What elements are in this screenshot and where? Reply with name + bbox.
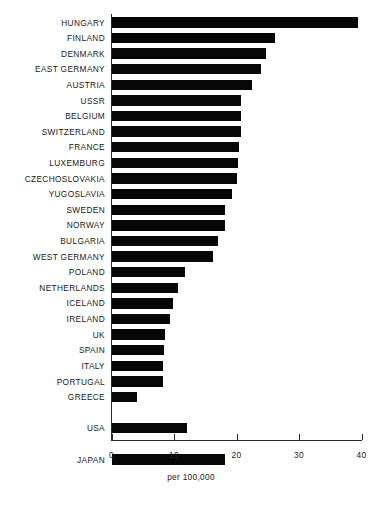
category-label: USA [87,421,105,435]
category-label: POLAND [69,265,105,279]
x-axis-tick [112,434,113,440]
x-axis-tick [362,434,363,440]
bar [112,111,241,121]
x-axis-tick [299,434,300,440]
bar-row: LUXEMBURG [112,155,362,171]
bar [112,329,165,339]
bar-row: SWEDEN [112,202,362,218]
bar-row: EAST GERMANY [112,62,362,78]
category-label: USSR [81,94,105,108]
bar-row: SWITZERLAND [112,124,362,140]
bar [112,158,238,168]
bar-row: ITALY [112,358,362,374]
category-label: SWITZERLAND [42,125,105,139]
category-label: PORTUGAL [57,375,105,389]
bar [112,392,137,402]
bar [112,345,164,355]
bar-row: DENMARK [112,46,362,62]
category-label: YUGOSLAVIA [49,187,105,201]
bar [112,205,225,215]
category-label: FRANCE [69,140,105,154]
bar-rows: HUNGARYFINLANDDENMARKEAST GERMANYAUSTRIA… [112,15,362,468]
category-label: DENMARK [61,47,105,61]
category-label: SWEDEN [66,203,105,217]
bar-chart: HUNGARYFINLANDDENMARKEAST GERMANYAUSTRIA… [0,0,382,505]
bar-row: GREECE [112,390,362,406]
bar [112,48,266,58]
bar-row: PORTUGAL [112,374,362,390]
bar-row: NETHERLANDS [112,280,362,296]
category-label: ITALY [81,359,105,373]
category-label: BULGARIA [60,234,105,248]
bar-row: POLAND [112,265,362,281]
bar [112,376,163,386]
x-axis-tick-label: 30 [294,450,304,460]
bar [112,64,261,74]
bar-row: HUNGARY [112,15,362,31]
x-axis-tick-label: 20 [232,450,242,460]
bar [112,80,252,90]
x-axis-tick [174,434,175,440]
bar-row: USSR [112,93,362,109]
bar [112,33,275,43]
bar-row: FINLAND [112,31,362,47]
category-label: SPAIN [79,343,105,357]
category-label: BELGIUM [65,109,105,123]
bar-row: CZECHOSLOVAKIA [112,171,362,187]
bar-row: ICELAND [112,296,362,312]
x-axis-tick-label: 0 [109,450,114,460]
category-label: HUNGARY [61,16,105,30]
bar [112,220,225,230]
bar-row: SPAIN [112,343,362,359]
category-label: AUSTRIA [67,78,105,92]
x-axis-tick-label: 10 [169,450,179,460]
bar-row: NORWAY [112,218,362,234]
category-label: NETHERLANDS [39,281,105,295]
category-label: EAST GERMANY [35,62,105,76]
category-label: WEST GERMANY [33,250,105,264]
category-label: ICELAND [67,296,105,310]
category-label: JAPAN [77,453,105,467]
bar [112,283,178,293]
bar [112,236,218,246]
y-axis-line [111,14,112,441]
bar [112,173,237,183]
bar-row: FRANCE [112,140,362,156]
category-label: NORWAY [67,218,105,232]
x-axis-line [111,440,362,441]
category-label: IRELAND [67,312,105,326]
bar [112,95,241,105]
bar-row: BELGIUM [112,109,362,125]
bar [112,361,163,371]
bar [112,314,170,324]
bar [112,251,213,261]
category-label: FINLAND [67,31,105,45]
x-axis-tick [237,434,238,440]
category-label: GREECE [68,390,105,404]
bar [112,298,173,308]
bar-row: BULGARIA [112,234,362,250]
bar [112,423,187,433]
bar [112,189,232,199]
bar [112,126,241,136]
bar-row: WEST GERMANY [112,249,362,265]
bar-row: YUGOSLAVIA [112,187,362,203]
category-label: LUXEMBURG [49,156,105,170]
x-axis-tick-label: 40 [357,450,367,460]
bar [112,17,358,27]
category-label: CZECHOSLOVAKIA [25,172,105,186]
bar [112,267,185,277]
bar-row: IRELAND [112,312,362,328]
bar-row: UK [112,327,362,343]
category-label: UK [93,328,105,342]
bar-row: AUSTRIA [112,77,362,93]
x-axis-title: per 100,000 [0,472,382,482]
plot-area: HUNGARYFINLANDDENMARKEAST GERMANYAUSTRIA… [112,15,362,440]
bar [112,142,239,152]
